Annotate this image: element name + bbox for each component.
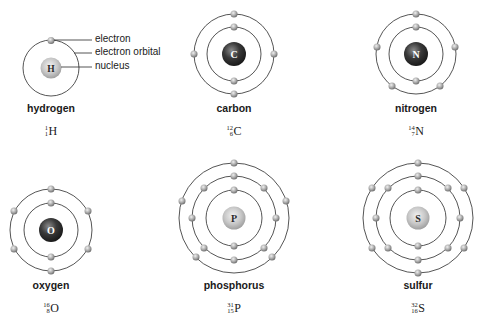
electron: [11, 208, 18, 215]
isotope-sulfur: 3216 S: [358, 293, 478, 313]
electron: [369, 245, 376, 252]
electron: [48, 200, 55, 207]
electron: [48, 268, 55, 275]
nucleus-symbol: N: [412, 49, 420, 60]
atomic-number: 8: [43, 308, 50, 313]
atom-name-oxygen: oxygen: [0, 279, 111, 291]
electron: [415, 243, 422, 250]
legend-orbital-label: electron orbital: [95, 46, 161, 57]
electron: [445, 245, 452, 252]
electron: [385, 245, 392, 252]
isotope-phosphorus: 3115 P: [174, 293, 294, 313]
electron: [231, 187, 238, 194]
electron: [191, 51, 198, 58]
element-symbol: H: [49, 125, 58, 137]
electron: [415, 187, 422, 194]
nucleus-symbol: P: [231, 213, 237, 224]
element-symbol: O: [50, 302, 59, 313]
atom-carbon: C: [191, 11, 278, 98]
electron: [85, 208, 92, 215]
element-symbol: P: [234, 302, 241, 313]
atomic-number: 6: [226, 131, 233, 137]
electron: [369, 185, 376, 192]
electron: [48, 37, 55, 44]
atomic-number: 16: [411, 308, 418, 313]
electron: [415, 160, 422, 167]
electron: [85, 246, 92, 253]
nucleus-symbol: H: [47, 64, 55, 74]
isotope-oxygen: 168 O: [0, 293, 111, 313]
electron: [231, 24, 238, 31]
electron: [374, 44, 381, 51]
electron: [457, 215, 464, 222]
electron: [413, 11, 420, 18]
electron: [189, 215, 196, 222]
isotope-carbon: 126 C: [174, 116, 294, 137]
electron: [273, 215, 280, 222]
electron: [452, 44, 459, 51]
atomic-number: 1: [45, 131, 48, 137]
electron: [415, 173, 422, 180]
nucleus-symbol: C: [230, 49, 237, 60]
atomic-structure-diagram: H C N O: [0, 0, 480, 313]
electron: [201, 185, 208, 192]
electron: [48, 254, 55, 261]
isotope-nitrogen: 147 N: [356, 116, 476, 137]
legend-electron-label: electron: [95, 33, 131, 44]
atom-hydrogen: H: [23, 37, 92, 96]
atom-oxygen: O: [10, 186, 92, 275]
electron: [445, 185, 452, 192]
electron: [231, 257, 238, 264]
element-symbol: C: [233, 125, 241, 137]
legend-nucleus-label: nucleus: [95, 60, 129, 71]
electron: [231, 91, 238, 98]
electron: [415, 257, 422, 264]
nucleus-symbol: S: [415, 213, 421, 224]
electron: [179, 198, 186, 205]
atomic-number: 7: [408, 131, 415, 137]
electron: [389, 83, 396, 90]
electron: [231, 78, 238, 85]
atom-name-phosphorus: phosphorus: [174, 279, 294, 291]
electron: [231, 243, 238, 250]
electron: [269, 254, 276, 261]
atom-phosphorus: P: [179, 160, 290, 274]
electron: [231, 160, 238, 167]
electron: [201, 245, 208, 252]
electron: [231, 173, 238, 180]
electron: [373, 215, 380, 222]
atom-name-nitrogen: nitrogen: [356, 102, 476, 114]
atom-nitrogen: N: [374, 11, 459, 95]
atomic-number: 15: [227, 308, 234, 313]
electron: [231, 11, 238, 18]
electron: [461, 185, 468, 192]
electron: [271, 51, 278, 58]
atom-name-sulfur: sulfur: [358, 279, 478, 291]
atom-name-hydrogen: hydrogen: [0, 102, 111, 114]
electron: [385, 185, 392, 192]
electron: [415, 270, 422, 277]
element-symbol: N: [415, 125, 424, 137]
electron: [261, 245, 268, 252]
electron: [413, 24, 420, 31]
isotope-hydrogen: 11 H: [0, 116, 111, 137]
electron: [413, 78, 420, 85]
atom-name-carbon: carbon: [174, 102, 294, 114]
electron: [461, 245, 468, 252]
electron: [48, 186, 55, 193]
atom-sulfur: S: [363, 160, 473, 277]
electron: [261, 185, 268, 192]
nucleus-symbol: O: [47, 225, 55, 236]
electron: [283, 198, 290, 205]
electron: [11, 246, 18, 253]
element-symbol: S: [418, 302, 425, 313]
electron: [437, 83, 444, 90]
electron: [193, 254, 200, 261]
